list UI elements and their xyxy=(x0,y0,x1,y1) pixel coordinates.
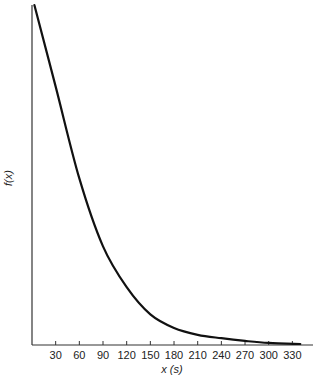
x-tick-label: 330 xyxy=(283,349,301,361)
y-axis-title: f(x) xyxy=(2,170,14,186)
chart: 306090120150180210240270300330 x (s) f(x… xyxy=(0,0,318,384)
data-curve xyxy=(34,5,300,344)
x-tick-label: 300 xyxy=(260,349,278,361)
x-tick-label: 210 xyxy=(189,349,207,361)
x-axis-title: x (s) xyxy=(160,363,183,375)
x-tick-label: 90 xyxy=(97,349,109,361)
x-tick-labels: 306090120150180210240270300330 xyxy=(50,349,302,361)
x-tick-label: 180 xyxy=(165,349,183,361)
x-tick-label: 60 xyxy=(73,349,85,361)
x-tick-label: 270 xyxy=(236,349,254,361)
x-tick-label: 120 xyxy=(118,349,136,361)
x-tick-label: 150 xyxy=(141,349,159,361)
x-tick-label: 30 xyxy=(50,349,62,361)
x-tick-label: 240 xyxy=(212,349,230,361)
axes xyxy=(32,5,313,345)
